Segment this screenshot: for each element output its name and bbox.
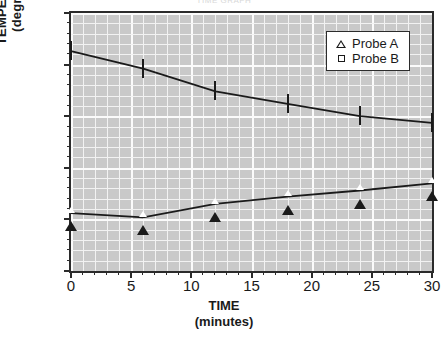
x-tick — [419, 271, 420, 275]
x-tick — [94, 271, 95, 275]
data-point-probe-b — [359, 107, 361, 125]
data-point-probe-b — [287, 95, 289, 113]
data-point-probe-a — [282, 188, 294, 206]
x-tick-label: 25 — [352, 277, 392, 294]
legend-item-probe-a: Probe A — [333, 36, 399, 51]
y-tick — [64, 64, 71, 66]
y-tick — [64, 12, 71, 14]
triangle-open-icon — [426, 174, 438, 201]
x-tick — [166, 271, 167, 275]
x-tick — [178, 271, 179, 275]
data-point-probe-a — [426, 174, 438, 192]
x-tick — [299, 271, 300, 275]
data-point-probe-a — [209, 195, 221, 213]
x-tick — [395, 271, 396, 275]
x-axis-title: TIME (minutes) — [0, 298, 448, 330]
square-open-icon — [333, 55, 349, 62]
x-tick — [407, 271, 408, 275]
x-tick-label: 15 — [232, 277, 272, 294]
cropped-title: TIME GRAPH — [0, 0, 448, 3]
triangle-open-icon — [333, 40, 349, 48]
square-open-icon — [431, 113, 433, 132]
x-tick — [82, 271, 83, 275]
x-tick — [142, 271, 143, 275]
y-axis-title-sub: (degrees C) — [9, 0, 24, 32]
legend-label-probe-a: Probe A — [352, 36, 398, 51]
data-point-probe-a — [354, 182, 366, 200]
triangle-open-icon — [209, 195, 221, 222]
data-point-probe-a — [137, 208, 149, 226]
x-axis-title-main: TIME — [208, 298, 239, 313]
plot-area: Probe A Probe B — [69, 11, 434, 273]
x-tick — [359, 271, 360, 275]
y-tick — [64, 167, 71, 169]
x-tick — [106, 271, 107, 275]
x-tick-label: 30 — [412, 277, 448, 294]
x-tick — [154, 271, 155, 275]
chart-figure: TIME GRAPH TEMPERATURE (degrees C) Probe… — [0, 0, 448, 338]
x-tick-label: 0 — [51, 277, 91, 294]
x-tick — [238, 271, 239, 275]
square-open-icon — [359, 106, 361, 125]
x-tick-label: 20 — [292, 277, 332, 294]
x-tick — [202, 271, 203, 275]
data-point-probe-b — [142, 60, 144, 78]
triangle-open-icon — [282, 188, 294, 215]
legend: Probe A Probe B — [326, 31, 410, 71]
triangle-open-icon — [65, 204, 77, 231]
triangle-open-icon — [354, 182, 366, 209]
y-tick — [64, 115, 71, 117]
legend-label-probe-b: Probe B — [352, 51, 399, 66]
x-axis-title-sub: (minutes) — [195, 314, 254, 329]
x-tick — [118, 271, 119, 275]
x-tick — [287, 271, 288, 275]
data-point-probe-b — [431, 114, 433, 132]
data-point-probe-b — [70, 42, 72, 60]
square-open-icon — [214, 81, 216, 100]
x-tick — [347, 271, 348, 275]
x-tick — [263, 271, 264, 275]
series-line — [71, 183, 432, 217]
square-open-icon — [70, 41, 72, 60]
x-tick-label: 10 — [171, 277, 211, 294]
x-tick — [214, 271, 215, 275]
x-tick — [275, 271, 276, 275]
square-open-icon — [142, 59, 144, 78]
x-tick — [383, 271, 384, 275]
square-open-icon — [287, 94, 289, 113]
x-tick — [226, 271, 227, 275]
data-point-probe-b — [214, 82, 216, 100]
triangle-open-icon — [137, 208, 149, 235]
x-tick — [323, 271, 324, 275]
x-tick-label: 5 — [111, 277, 151, 294]
y-axis-title-main: TEMPERATURE — [0, 0, 9, 45]
y-axis-title: TEMPERATURE (degrees C) — [0, 0, 24, 75]
legend-item-probe-b: Probe B — [333, 51, 399, 66]
data-point-probe-a — [65, 204, 77, 222]
x-tick — [335, 271, 336, 275]
